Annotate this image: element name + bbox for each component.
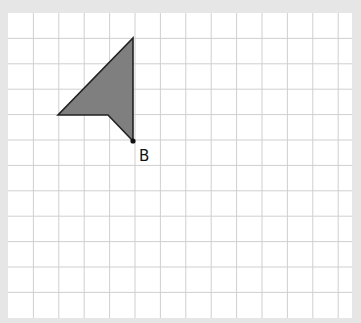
grid-diagram [0,0,361,323]
point-b-dot [130,138,135,143]
point-b-label: B [139,147,149,165]
